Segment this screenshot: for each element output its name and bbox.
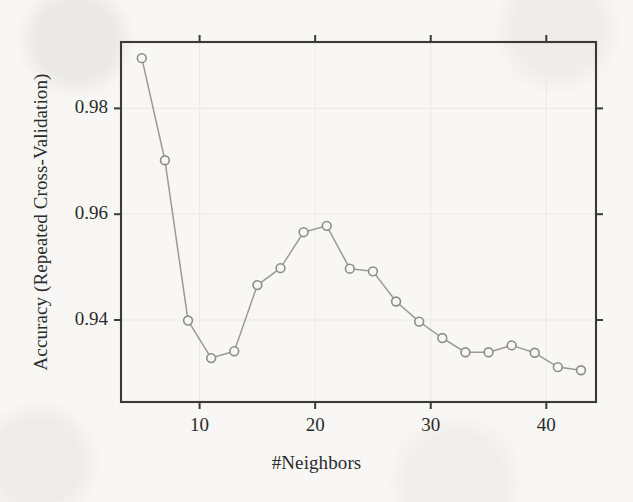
y-tick-label: 0.98 — [8, 96, 108, 118]
grid-lines — [121, 42, 596, 402]
x-axis-title: #Neighbors — [0, 452, 633, 474]
x-tick-label: 20 — [275, 414, 355, 436]
y-tick-label: 0.94 — [8, 308, 108, 330]
chart-figure: Accuracy (Repeated Cross-Validation) #Ne… — [0, 0, 633, 502]
y-tick-label: 0.96 — [8, 202, 108, 224]
x-tick-label: 40 — [506, 414, 586, 436]
x-tick-label: 10 — [160, 414, 240, 436]
x-tick-label: 30 — [391, 414, 471, 436]
axis-frame — [121, 42, 596, 402]
